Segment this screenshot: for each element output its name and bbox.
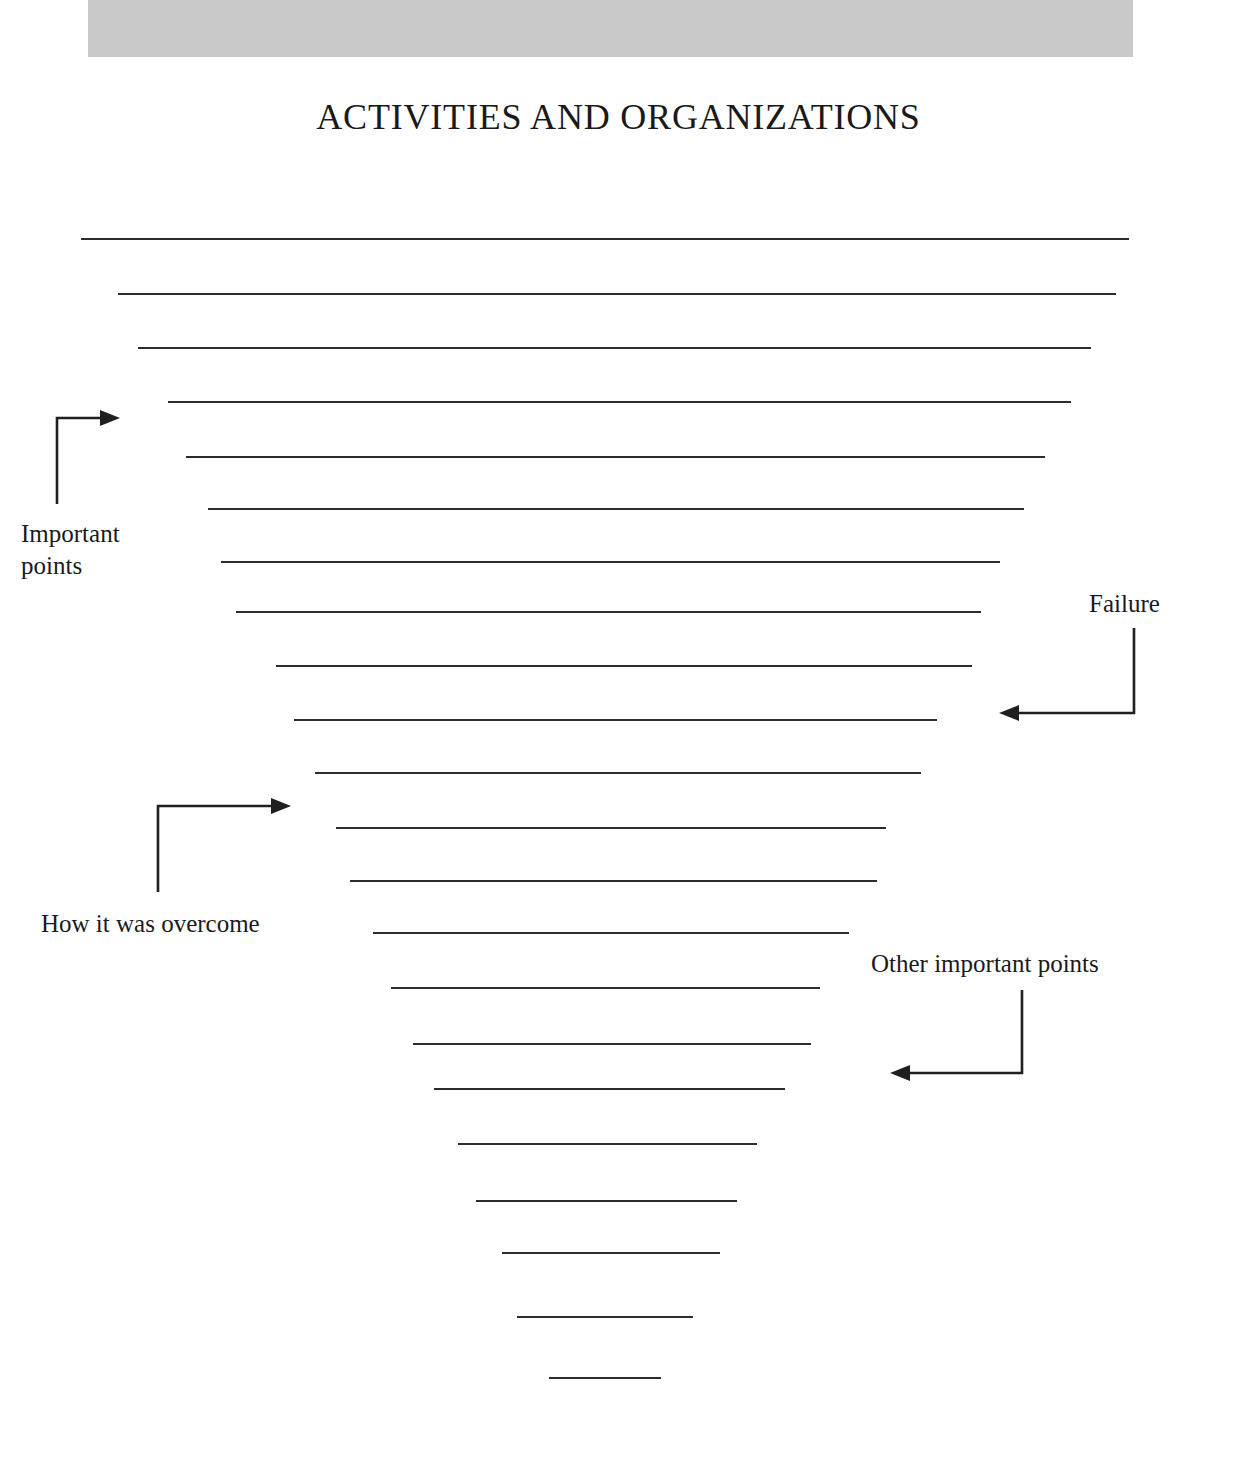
header-band <box>88 0 1133 57</box>
writing-line[interactable] <box>221 561 1000 563</box>
worksheet-page: ACTIVITIES AND ORGANIZATIONS Important p… <box>0 0 1237 1460</box>
label-other-important-points: Other important points <box>871 948 1099 980</box>
writing-line[interactable] <box>138 347 1091 349</box>
writing-line[interactable] <box>434 1088 785 1090</box>
writing-line[interactable] <box>276 665 972 667</box>
writing-line[interactable] <box>373 932 849 934</box>
writing-line[interactable] <box>294 719 937 721</box>
writing-line[interactable] <box>208 508 1024 510</box>
writing-line[interactable] <box>81 238 1129 240</box>
writing-line[interactable] <box>186 456 1045 458</box>
arrow-failure-icon <box>995 620 1145 725</box>
arrow-other-points-icon <box>878 982 1038 1087</box>
arrow-important-points-icon <box>40 405 126 509</box>
writing-line[interactable] <box>236 611 981 613</box>
page-title: ACTIVITIES AND ORGANIZATIONS <box>0 96 1237 138</box>
writing-line[interactable] <box>413 1043 811 1045</box>
arrow-how-overcome-icon <box>145 793 303 898</box>
writing-line[interactable] <box>502 1252 720 1254</box>
writing-line[interactable] <box>391 987 820 989</box>
writing-line[interactable] <box>350 880 877 882</box>
writing-line[interactable] <box>549 1377 661 1379</box>
writing-line[interactable] <box>118 293 1116 295</box>
label-how-it-was-overcome: How it was overcome <box>41 908 260 940</box>
label-failure: Failure <box>1089 588 1160 620</box>
writing-line[interactable] <box>517 1316 693 1318</box>
writing-lines-group <box>0 0 1237 1460</box>
writing-line[interactable] <box>336 827 886 829</box>
writing-line[interactable] <box>315 772 921 774</box>
writing-line[interactable] <box>168 401 1071 403</box>
writing-line[interactable] <box>458 1143 757 1145</box>
writing-line[interactable] <box>476 1200 737 1202</box>
label-important-points: Important points <box>21 518 120 582</box>
